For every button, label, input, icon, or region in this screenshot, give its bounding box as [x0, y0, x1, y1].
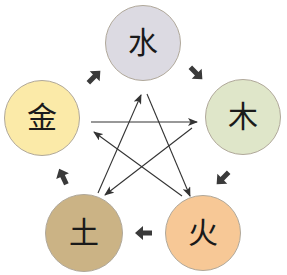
- node-water: 水: [105, 5, 181, 81]
- arrow-water-to-fire: [147, 94, 190, 196]
- five-elements-diagram: 水 木 火 土 金: [0, 0, 287, 275]
- node-fire: 火: [165, 195, 241, 271]
- arrow-metal-to-water: [83, 66, 105, 88]
- arrow-wood-to-earth: [105, 128, 192, 195]
- arrow-fire-to-earth: [135, 226, 152, 240]
- arrow-fire-to-metal: [94, 132, 182, 196]
- node-metal: 金: [4, 80, 80, 156]
- arrow-earth-to-metal: [53, 166, 73, 187]
- node-label-water: 水: [128, 28, 158, 58]
- controlling-cycle: [91, 94, 197, 196]
- arrow-earth-to-water: [98, 95, 141, 193]
- arrow-water-to-wood: [185, 62, 207, 84]
- node-label-wood: 木: [228, 102, 258, 132]
- arrow-wood-to-fire: [212, 167, 234, 189]
- node-label-fire: 火: [188, 218, 218, 248]
- node-earth: 土: [45, 194, 123, 272]
- node-label-metal: 金: [27, 103, 57, 133]
- node-wood: 木: [205, 79, 281, 155]
- node-label-earth: 土: [69, 218, 99, 248]
